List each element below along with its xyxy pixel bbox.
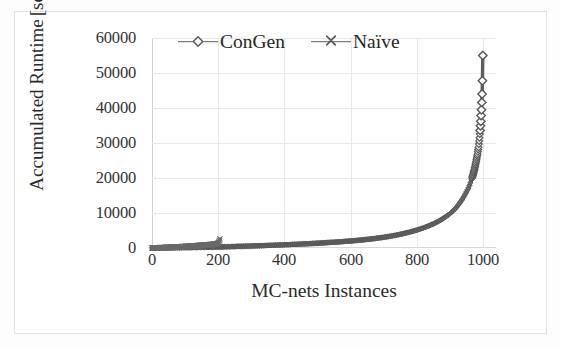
data-point-marker xyxy=(478,98,486,106)
diamond-marker-icon xyxy=(193,33,204,51)
legend-label-congen: ConGen xyxy=(220,32,285,52)
y-tick-0: 0 xyxy=(128,240,136,257)
x-marker-icon xyxy=(325,33,338,51)
x-tick-200: 200 xyxy=(206,252,230,269)
legend-entry-congen[interactable]: ConGen xyxy=(178,32,285,52)
legend-swatch-congen xyxy=(178,35,218,49)
x-tick-600: 600 xyxy=(339,252,363,269)
series-congen-markers xyxy=(149,51,487,250)
y-tick-10000: 10000 xyxy=(96,205,136,222)
y-tick-30000: 30000 xyxy=(96,135,136,152)
legend-label-naive: Naïve xyxy=(353,32,400,52)
plot-area: ConGen Naïve xyxy=(152,38,496,248)
figure-root: Accumulated Runtime [sec] 60000 50000 40… xyxy=(0,0,561,347)
x-tick-1000: 1000 xyxy=(467,252,499,269)
x-tick-400: 400 xyxy=(272,252,296,269)
y-tick-50000: 50000 xyxy=(96,65,136,82)
series-congen xyxy=(149,51,487,250)
y-tick-40000: 40000 xyxy=(96,100,136,117)
x-tick-0: 0 xyxy=(148,252,156,269)
y-tick-60000: 60000 xyxy=(96,30,136,47)
x-axis-tick-labels: 0 200 400 600 800 1000 xyxy=(152,252,496,278)
legend-entry-naive[interactable]: Naïve xyxy=(311,32,400,52)
data-point-marker xyxy=(479,51,487,59)
chart-legend: ConGen Naïve xyxy=(178,32,400,52)
x-tick-800: 800 xyxy=(405,252,429,269)
series-congen-line xyxy=(152,56,483,249)
data-point-marker xyxy=(478,77,486,85)
y-tick-20000: 20000 xyxy=(96,170,136,187)
x-axis-title: MC-nets Instances xyxy=(152,280,496,302)
legend-swatch-naive xyxy=(311,35,351,49)
data-layer xyxy=(152,38,496,248)
data-point-marker xyxy=(478,90,486,98)
y-axis-tick-labels: 60000 50000 40000 30000 20000 10000 0 xyxy=(40,38,144,248)
